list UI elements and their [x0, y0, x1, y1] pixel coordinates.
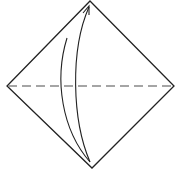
- fold-arrow-shaft: [76, 7, 90, 162]
- fold-arrow-tail: [61, 38, 90, 162]
- origami-diagram: [0, 0, 179, 170]
- paper-square-outline: [7, 1, 174, 168]
